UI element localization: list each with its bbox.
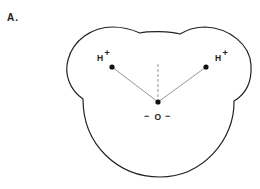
- bond-right: [158, 67, 206, 102]
- oxygen-label: O: [155, 112, 162, 122]
- hydrogen-left-charge: +: [105, 48, 110, 58]
- oxygen-charge-right: −: [165, 111, 170, 121]
- water-molecule-figure: A. H + H + − O −: [0, 0, 260, 189]
- hydrogen-right-charge: +: [223, 48, 228, 58]
- hydrogen-left-label: H: [97, 53, 103, 63]
- hydrogen-left-dot: [109, 64, 114, 69]
- oxygen-charge-left: −: [144, 111, 149, 121]
- hydrogen-right-dot: [203, 64, 208, 69]
- molecule-diagram: H + H + − O −: [0, 0, 260, 189]
- bond-left: [112, 67, 158, 102]
- oxygen-dot: [155, 99, 160, 104]
- panel-label: A.: [7, 12, 19, 23]
- hydrogen-right-label: H: [215, 53, 221, 63]
